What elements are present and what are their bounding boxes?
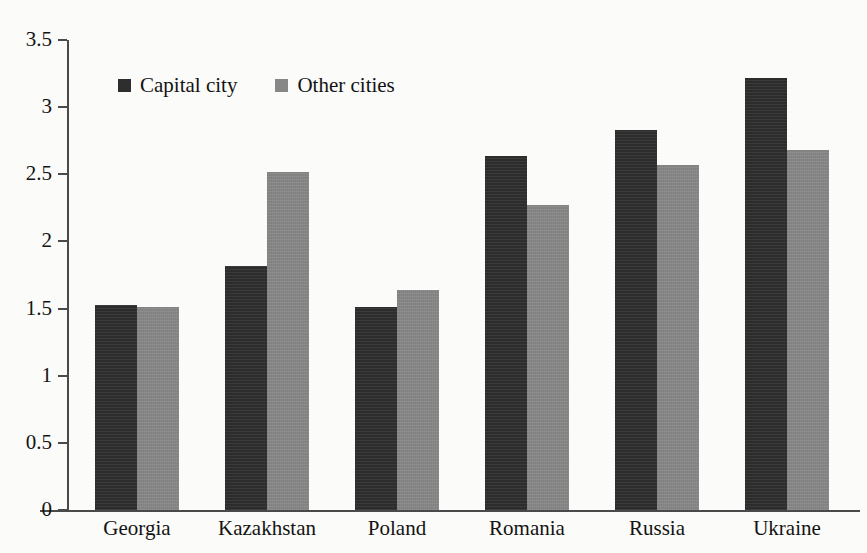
y-axis-tick-label: 1 (4, 365, 52, 386)
bar-group (355, 40, 439, 510)
bar-other-cities (137, 307, 179, 510)
bar-group (95, 40, 179, 510)
x-axis-label-kazakhstan: Kazakhstan (192, 518, 342, 539)
y-axis-tick (58, 39, 67, 41)
bar-capital-city (225, 266, 267, 510)
bar-capital-city (745, 78, 787, 510)
bar-capital-city (485, 156, 527, 511)
y-axis-tick-label: 3 (4, 96, 52, 117)
bar-group (485, 40, 569, 510)
x-axis-line (40, 510, 860, 512)
y-axis-tick-label: 2.5 (4, 163, 52, 184)
y-axis-tick (58, 308, 67, 310)
x-axis-label-georgia: Georgia (62, 518, 212, 539)
x-axis-label-poland: Poland (322, 518, 472, 539)
y-axis-tick (58, 106, 67, 108)
x-axis-label-russia: Russia (582, 518, 732, 539)
bar-group (745, 40, 829, 510)
plot-area (67, 40, 857, 510)
bar-group (225, 40, 309, 510)
bar-other-cities (267, 172, 309, 510)
bar-group (615, 40, 699, 510)
y-axis-tick-label: 1.5 (4, 298, 52, 319)
y-axis-tick-labels: 00.511.522.533.5 (0, 0, 52, 553)
bar-capital-city (355, 307, 397, 510)
bar-capital-city (615, 130, 657, 510)
bar-other-cities (657, 165, 699, 510)
y-axis-tick (58, 375, 67, 377)
y-axis-tick-label: 3.5 (4, 29, 52, 50)
y-axis-tick (58, 509, 67, 511)
x-axis-label-romania: Romania (452, 518, 602, 539)
y-axis-tick (58, 240, 67, 242)
bar-chart: Capital city Other cities 00.511.522.533… (0, 0, 867, 553)
y-axis-tick (58, 442, 67, 444)
y-axis-tick-label: 0 (4, 499, 52, 520)
bar-other-cities (787, 150, 829, 510)
x-axis-label-ukraine: Ukraine (712, 518, 862, 539)
bar-other-cities (527, 205, 569, 510)
y-axis-tick-label: 0.5 (4, 432, 52, 453)
y-axis-tick-label: 2 (4, 230, 52, 251)
bar-other-cities (397, 290, 439, 510)
y-axis-tick (58, 173, 67, 175)
bar-capital-city (95, 305, 137, 510)
